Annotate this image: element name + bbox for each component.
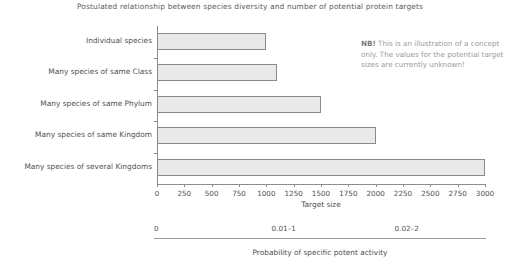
x-axis-tick xyxy=(239,184,240,187)
secondary-axis-title: Probability of specific potent activity xyxy=(154,248,486,257)
secondary-axis-line xyxy=(154,238,486,239)
x-axis-tick-label: 250 xyxy=(177,189,191,198)
x-axis-tick-label: 0 xyxy=(155,189,160,198)
x-axis-tick xyxy=(376,184,377,187)
x-axis-tick xyxy=(403,184,404,187)
x-axis-tick xyxy=(430,184,431,187)
secondary-axis-tick-label: 0 xyxy=(154,224,159,233)
x-axis-tick-label: 500 xyxy=(205,189,219,198)
x-axis-tick-label: 2000 xyxy=(367,189,385,198)
x-axis-tick-label: 1500 xyxy=(312,189,330,198)
y-axis-tick-label: Many species of same Class xyxy=(0,67,152,76)
nb-note-lead: NB! xyxy=(361,39,376,48)
y-axis-tick xyxy=(154,153,157,154)
bar-row xyxy=(157,121,485,152)
x-axis-tick xyxy=(458,184,459,187)
bar-many-species-same-phylum xyxy=(157,96,321,113)
secondary-axis-tick-label: 0.01–1 xyxy=(272,224,296,233)
x-axis-tick xyxy=(348,184,349,187)
bar-many-species-same-kingdom xyxy=(157,127,376,144)
x-axis-tick-label: 2500 xyxy=(421,189,439,198)
x-axis-tick xyxy=(157,184,158,187)
x-axis-title: Target size xyxy=(157,200,485,209)
x-axis-tick-label: 750 xyxy=(232,189,246,198)
bar-many-species-several-kingdoms xyxy=(157,159,485,176)
x-axis-tick-label: 2750 xyxy=(449,189,467,198)
x-axis-tick-label: 1000 xyxy=(257,189,275,198)
bar-row xyxy=(157,153,485,184)
y-axis-tick-label: Many species of same Kingdom xyxy=(0,130,152,139)
y-axis-tick-label: Many species of same Phylum xyxy=(0,99,152,108)
x-axis-tick-label: 1250 xyxy=(285,189,303,198)
x-axis-tick-label: 1750 xyxy=(339,189,357,198)
y-axis-tick-label: Many species of several Kingdoms xyxy=(0,162,152,171)
y-axis-tick xyxy=(154,58,157,59)
x-axis-tick xyxy=(184,184,185,187)
x-axis-tick xyxy=(266,184,267,187)
bar-row xyxy=(157,90,485,121)
y-axis-tick xyxy=(154,90,157,91)
x-axis-tick xyxy=(485,184,486,187)
x-axis-tick xyxy=(321,184,322,187)
nb-note-text: This is an illustration of a concept onl… xyxy=(361,39,503,69)
x-axis-tick-label: 2250 xyxy=(394,189,412,198)
nb-note: NB! This is an illustration of a concept… xyxy=(361,39,507,71)
x-axis-tick xyxy=(212,184,213,187)
page-title: Postulated relationship between species … xyxy=(0,2,500,11)
secondary-axis-tick-label: 0.02–2 xyxy=(395,224,419,233)
x-axis-tick-label: 3000 xyxy=(476,189,494,198)
bar-many-species-same-class xyxy=(157,64,277,81)
y-axis-tick-label: Individual species xyxy=(0,36,152,45)
y-axis-tick xyxy=(154,121,157,122)
x-axis-tick xyxy=(294,184,295,187)
bar-individual-species xyxy=(157,33,266,50)
